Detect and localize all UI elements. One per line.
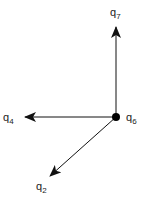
edge-q6-q2-arrow bbox=[50, 117, 116, 176]
node-q7-label: q7 bbox=[110, 6, 121, 21]
node-q4-label: q4 bbox=[3, 111, 14, 126]
node-q6-label: q6 bbox=[126, 111, 137, 126]
node-q6-dot bbox=[112, 113, 120, 121]
state-diagram: q6 q7 q4 q2 bbox=[0, 0, 144, 201]
node-q2-label: q2 bbox=[36, 180, 47, 195]
